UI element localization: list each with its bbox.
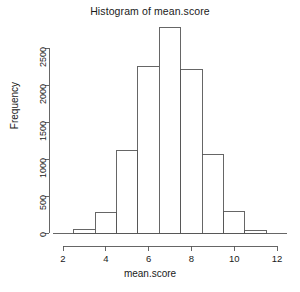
y-tick-label: 2000 <box>38 84 48 124</box>
histogram-bar <box>74 229 95 233</box>
bars-layer <box>74 27 267 233</box>
histogram-bar <box>138 67 159 234</box>
histogram-bar <box>202 155 223 233</box>
y-tick-label: 2500 <box>38 47 48 87</box>
histogram-bar <box>159 27 180 233</box>
histogram-bar <box>181 69 202 233</box>
y-tick-label: 500 <box>38 195 48 235</box>
y-tick-label: 0 <box>38 232 48 272</box>
y-tick-label: 1000 <box>38 158 48 198</box>
x-tick-label: 12 <box>272 253 283 264</box>
x-tick-label: 2 <box>60 253 65 264</box>
x-tick-label: 10 <box>229 253 240 264</box>
histogram-bar <box>224 212 245 233</box>
histogram-bar <box>117 150 138 233</box>
x-tick-label: 6 <box>146 253 151 264</box>
histogram-plot: Histogram of mean.score Frequency mean.s… <box>0 0 300 292</box>
y-tick-label: 1500 <box>38 121 48 161</box>
x-tick-label: 8 <box>189 253 194 264</box>
x-tick-label: 4 <box>103 253 108 264</box>
histogram-bar <box>95 212 116 233</box>
